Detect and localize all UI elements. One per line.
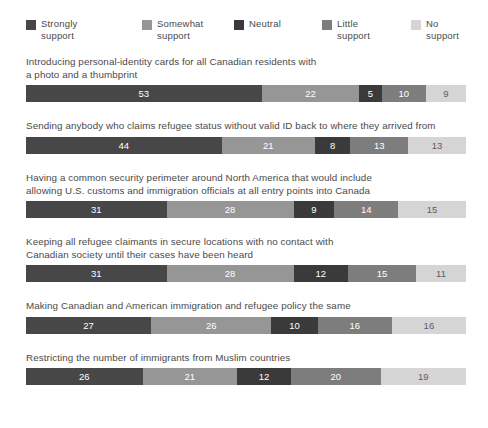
bar-segment[interactable]: 9: [294, 201, 335, 218]
chart-row: Sending anybody who claims refugee statu…: [26, 119, 466, 153]
bar-segment[interactable]: 13: [408, 137, 466, 154]
chart-row: Introducing personal-identity cards for …: [26, 55, 466, 102]
legend-swatch-neutral: [234, 20, 244, 30]
row-title: Introducing personal-identity cards for …: [26, 55, 466, 81]
bar-segment[interactable]: 26: [151, 317, 271, 334]
bar-segment[interactable]: 21: [143, 368, 237, 385]
bar-segment[interactable]: 28: [167, 201, 294, 218]
legend-label-somewhat_support: Somewhat support: [157, 18, 203, 41]
legend-item-strongly_support[interactable]: Strongly support: [26, 18, 77, 41]
bar-segment[interactable]: 28: [167, 265, 294, 282]
legend-swatch-somewhat_support: [142, 20, 152, 30]
row-title: Having a common security perimeter aroun…: [26, 171, 466, 197]
row-title: Making Canadian and American immigration…: [26, 299, 466, 312]
bar-segment[interactable]: 14: [334, 201, 398, 218]
bar-segment[interactable]: 10: [382, 85, 426, 102]
bar-segment[interactable]: 44: [26, 137, 222, 154]
legend-swatch-no_support: [411, 20, 421, 30]
bar-segment[interactable]: 19: [381, 368, 466, 385]
legend-label-neutral: Neutral: [249, 18, 281, 30]
stacked-bar: 2726101616: [26, 317, 466, 334]
chart-row: Having a common security perimeter aroun…: [26, 171, 466, 218]
row-title: Keeping all refugee claimants in secure …: [26, 235, 466, 261]
bar-segment[interactable]: 22: [262, 85, 360, 102]
bar-segment[interactable]: 5: [359, 85, 381, 102]
bar-segment[interactable]: 12: [237, 368, 291, 385]
bar-segment[interactable]: 15: [348, 265, 416, 282]
stacked-bar: 53225109: [26, 85, 466, 102]
bar-segment[interactable]: 21: [222, 137, 315, 154]
legend-label-strongly_support: Strongly support: [41, 18, 77, 41]
bar-segment[interactable]: 13: [350, 137, 408, 154]
legend-swatch-little_support: [322, 20, 332, 30]
stacked-bar: 312891415: [26, 201, 466, 218]
legend-item-neutral[interactable]: Neutral: [234, 18, 281, 30]
legend-swatch-strongly_support: [26, 20, 36, 30]
bar-segment[interactable]: 16: [392, 317, 466, 334]
chart-row: Making Canadian and American immigration…: [26, 299, 466, 333]
bar-segment[interactable]: 26: [26, 368, 143, 385]
row-spacer: [26, 334, 466, 351]
legend-item-somewhat_support[interactable]: Somewhat support: [142, 18, 203, 41]
bar-segment[interactable]: 10: [271, 317, 317, 334]
bar-segment[interactable]: 16: [318, 317, 392, 334]
row-title: Sending anybody who claims refugee statu…: [26, 119, 466, 132]
stacked-bar: 442181313: [26, 137, 466, 154]
bar-segment[interactable]: 15: [398, 201, 466, 218]
legend-item-little_support[interactable]: Little support: [322, 18, 370, 41]
chart-rows: Introducing personal-identity cards for …: [26, 55, 466, 385]
legend-label-little_support: Little support: [337, 18, 370, 41]
chart-row: Restricting the number of immigrants fro…: [26, 351, 466, 385]
bar-segment[interactable]: 9: [426, 85, 466, 102]
chart-legend: Strongly supportSomewhat supportNeutralL…: [26, 18, 466, 52]
stacked-bar: 3128121511: [26, 265, 466, 282]
legend-label-no_support: No support: [426, 18, 466, 41]
stacked-bar: 2621122019: [26, 368, 466, 385]
bar-segment[interactable]: 20: [291, 368, 381, 385]
row-spacer: [26, 154, 466, 171]
bar-segment[interactable]: 31: [26, 265, 167, 282]
bar-segment[interactable]: 11: [416, 265, 466, 282]
bar-segment[interactable]: 12: [294, 265, 348, 282]
bar-segment[interactable]: 31: [26, 201, 167, 218]
row-spacer: [26, 282, 466, 299]
bar-segment[interactable]: 53: [26, 85, 262, 102]
bar-segment[interactable]: 8: [315, 137, 351, 154]
stacked-bar-chart: Strongly supportSomewhat supportNeutralL…: [0, 0, 488, 428]
chart-row: Keeping all refugee claimants in secure …: [26, 235, 466, 282]
row-title: Restricting the number of immigrants fro…: [26, 351, 466, 364]
bar-segment[interactable]: 27: [26, 317, 151, 334]
row-spacer: [26, 218, 466, 235]
row-spacer: [26, 102, 466, 119]
legend-item-no_support[interactable]: No support: [411, 18, 466, 41]
